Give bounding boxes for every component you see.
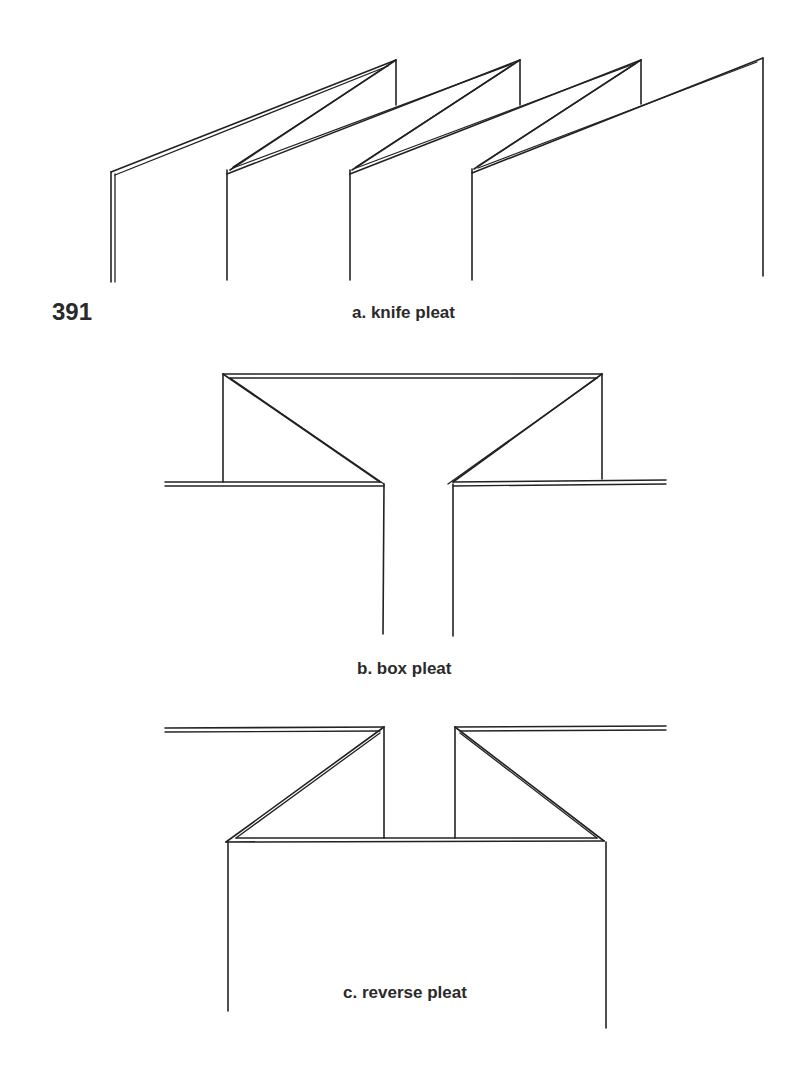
caption-reverse-pleat: c. reverse pleat [343, 983, 467, 1003]
caption-box-pleat: b. box pleat [357, 659, 451, 679]
knife-pleat-drawing [111, 58, 763, 282]
box-pleat-drawing [165, 374, 666, 636]
figure-number: 391 [52, 298, 92, 326]
caption-knife-pleat: a. knife pleat [352, 303, 455, 323]
pleat-diagram [0, 0, 810, 1075]
